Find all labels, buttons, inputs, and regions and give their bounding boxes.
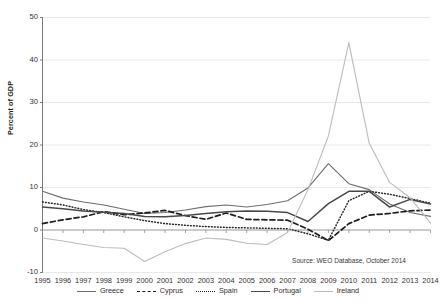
x-tick-label: 2012 — [380, 276, 400, 285]
chart-legend: GreeceCyprusSpainPortugalIreland — [0, 286, 436, 295]
x-tick-label: 2008 — [298, 276, 318, 285]
legend-label: Spain — [219, 286, 238, 295]
x-tick-label: 2009 — [318, 276, 338, 285]
legend-swatch-greece — [77, 287, 96, 294]
legend-swatch-ireland — [314, 287, 333, 294]
x-tick-label: 1996 — [53, 276, 73, 285]
x-tick-label: 2006 — [257, 276, 277, 285]
legend-swatch-cyprus — [137, 287, 156, 294]
x-tick-label: 2002 — [175, 276, 195, 285]
series-line-greece — [43, 164, 431, 217]
x-tick-label: 2000 — [135, 276, 155, 285]
x-tick-label: 2007 — [278, 276, 298, 285]
legend-label: Cyprus — [160, 286, 183, 295]
legend-item-spain[interactable]: Spain — [196, 286, 238, 295]
legend-item-cyprus[interactable]: Cyprus — [137, 286, 183, 295]
legend-swatch-spain — [196, 287, 215, 294]
series-line-spain — [43, 191, 431, 240]
x-tick-label: 2004 — [216, 276, 236, 285]
legend-item-portugal[interactable]: Portugal — [251, 286, 301, 295]
legend-item-greece[interactable]: Greece — [77, 286, 124, 295]
source-note: Source: WEO Database, October 2014 — [292, 257, 406, 264]
series-line-cyprus — [43, 210, 431, 241]
series-line-ireland — [43, 43, 431, 262]
legend-swatch-portugal — [251, 287, 270, 294]
x-tick-label: 1998 — [94, 276, 114, 285]
legend-label: Portugal — [274, 286, 301, 295]
x-tick-label: 2003 — [196, 276, 216, 285]
x-tick-label: 2010 — [339, 276, 359, 285]
x-tick-label: 2005 — [237, 276, 257, 285]
x-tick-label: 2013 — [400, 276, 420, 285]
x-tick-label: 1997 — [73, 276, 93, 285]
x-tick-label: 1999 — [114, 276, 134, 285]
x-tick-label: 2011 — [359, 276, 379, 285]
legend-label: Ireland — [337, 286, 359, 295]
x-tick-label: 2014 — [421, 276, 441, 285]
x-tick-label: 1995 — [33, 276, 53, 285]
legend-label: Greece — [100, 286, 124, 295]
x-tick-label: 2001 — [155, 276, 175, 285]
legend-item-ireland[interactable]: Ireland — [314, 286, 359, 295]
